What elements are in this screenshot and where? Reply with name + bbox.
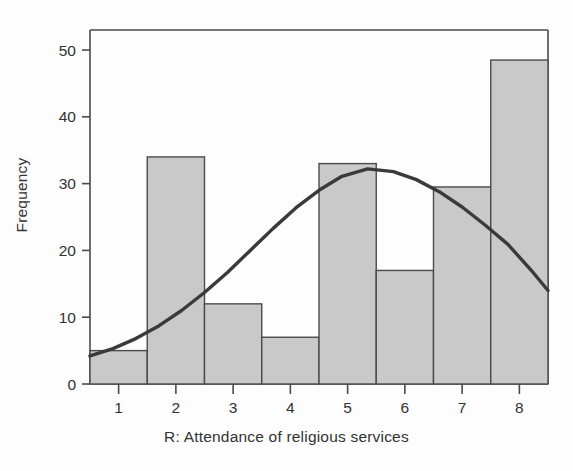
histogram-bar	[90, 351, 147, 384]
y-tick-label: 20	[59, 242, 77, 259]
y-axis-ticks: 01020304050	[59, 42, 90, 393]
y-tick-label: 0	[67, 376, 76, 393]
y-tick-label: 30	[59, 175, 77, 192]
y-tick-label: 40	[59, 108, 77, 125]
x-tick-label: 1	[114, 399, 123, 416]
histogram-bar	[205, 304, 262, 384]
histogram-figure: 01020304050 12345678 Frequency R: Attend…	[0, 0, 573, 471]
y-tick-label: 10	[59, 309, 77, 326]
histogram-bar	[319, 164, 376, 384]
x-tick-label: 5	[343, 399, 352, 416]
x-axis-ticks: 12345678	[114, 384, 523, 416]
histogram-bar	[147, 157, 204, 384]
x-tick-label: 7	[458, 399, 467, 416]
histogram-bar	[491, 60, 548, 384]
x-tick-label: 8	[515, 399, 524, 416]
histogram-bar	[262, 337, 319, 384]
chart-canvas: 01020304050 12345678	[0, 0, 573, 471]
x-tick-label: 4	[286, 399, 295, 416]
histogram-bar	[376, 270, 433, 384]
y-axis-label: Frequency	[13, 135, 31, 255]
x-tick-label: 3	[229, 399, 238, 416]
x-tick-label: 6	[401, 399, 410, 416]
x-axis-label: R: Attendance of religious services	[0, 428, 573, 446]
histogram-bar	[434, 187, 491, 384]
y-tick-label: 50	[59, 42, 77, 59]
x-tick-label: 2	[172, 399, 181, 416]
